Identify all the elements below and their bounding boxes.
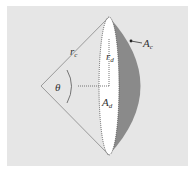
cone-cap-diagram: rc rd θ Ad Ac [0,0,194,172]
diagram-canvas: rc rd θ Ad Ac [0,0,194,172]
background-panel [7,6,188,166]
label-angle-theta: θ [55,81,61,93]
